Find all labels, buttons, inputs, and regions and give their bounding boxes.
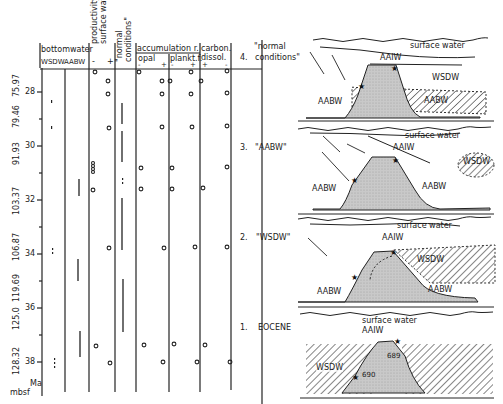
header-normal: "normal	[115, 30, 124, 62]
panel-3-aabw-right: AABW	[422, 182, 446, 191]
age-axis-label: Ma	[30, 380, 42, 388]
panel-4-aaiw: AAIW	[380, 53, 401, 62]
header-carbon: carbon.	[201, 45, 231, 53]
panel-3-number: 3.	[240, 143, 248, 152]
panel-1-site-689: 689	[387, 352, 400, 360]
age-tick-30: 30	[25, 142, 35, 150]
opal-plus: +	[161, 62, 167, 69]
depth-label-3: 91.93	[12, 142, 21, 165]
header-surface-wat: surface wat.	[99, 0, 108, 44]
svg-text:★: ★	[390, 248, 397, 257]
depth-label-1: 79.46	[12, 105, 21, 128]
depth-label-6: 119.69	[12, 274, 21, 302]
panel-3-surface: surface water	[405, 131, 460, 140]
svg-text:★: ★	[391, 64, 398, 73]
header-plankt: plankt.f.	[170, 55, 202, 63]
svg-text:★: ★	[358, 82, 365, 91]
prod-plus: +	[107, 58, 114, 66]
age-tick-34: 34	[25, 250, 35, 258]
depth-label-2: 75.97	[12, 74, 21, 97]
panel-4-aabw-right: AABW	[424, 96, 448, 105]
panel-1-wsdw: WSDW	[316, 363, 343, 372]
panel-2-aabw-right: AABW	[428, 285, 452, 294]
panel-4-number: 4.	[240, 53, 248, 62]
panel-1-aaiw: AAIW	[362, 326, 383, 335]
svg-text:★: ★	[394, 337, 401, 346]
svg-text:★: ★	[352, 373, 359, 382]
carbon-minus: -	[225, 62, 228, 69]
panel-3-wsdw: WSDW	[463, 157, 490, 166]
panel-1-name: EOCENE	[258, 323, 291, 332]
svg-text:★: ★	[351, 176, 358, 185]
panel-4-surface: surface water	[410, 41, 465, 50]
svg-text:★: ★	[392, 156, 399, 165]
panel-3-name: "AABW"	[255, 143, 287, 152]
header-conditions: conditions"	[124, 17, 133, 62]
carbon-plus: +	[202, 62, 208, 69]
header-wsdw: WSDW	[41, 59, 65, 66]
header-bottomwater: bottomwater	[41, 46, 93, 54]
panel-4-aabw-left: AABW	[318, 97, 342, 106]
depth-label-5: 106.87	[12, 233, 21, 261]
age-tick-32: 32	[25, 196, 35, 204]
plankt-minus: -	[171, 62, 174, 69]
depth-label-7: 125.0	[12, 307, 21, 330]
depth-axis-label: mbsf	[10, 389, 30, 397]
header-productivity: productivity	[90, 0, 99, 44]
plankt-plus: +	[190, 62, 196, 69]
panel-1-site-690: 690	[362, 371, 375, 379]
age-tick-38: 38	[25, 358, 35, 366]
panel-2-aabw-left: AABW	[317, 287, 341, 296]
panel-4-name2: conditions"	[255, 53, 300, 62]
depth-label-8: 128.32	[12, 347, 21, 375]
prod-minus: -	[92, 58, 95, 66]
panel-4-wsdw: WSDW	[432, 73, 459, 82]
panel-2-aaiw: AAIW	[382, 233, 403, 242]
panel-1-surface: surface water	[362, 316, 417, 325]
header-aabw: AABW	[64, 59, 85, 66]
panel-1-number: 1.	[240, 323, 248, 332]
age-tick-36: 36	[25, 304, 35, 312]
depth-label-4: 103.37	[12, 187, 21, 215]
panel-3-aaiw: AAIW	[393, 143, 414, 152]
panel-3-aabw-left: AABW	[312, 184, 336, 193]
panel-4-name: "normal	[254, 42, 286, 51]
header-accumulation: accumulation r.	[137, 45, 199, 53]
panel-2-wsdw: WSDW	[417, 255, 444, 264]
svg-text:★: ★	[351, 273, 358, 282]
opal-minus: -	[138, 62, 141, 69]
panel-2-name: "WSDW"	[256, 233, 290, 242]
age-tick-28: 28	[25, 88, 35, 96]
panel-2-surface: surface water	[397, 221, 452, 230]
panel-2-number: 2.	[240, 233, 248, 242]
